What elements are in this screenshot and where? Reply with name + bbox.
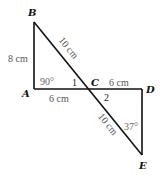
- point-label-b: B: [27, 7, 36, 18]
- point-label-d: D: [145, 84, 155, 95]
- angle-2-label: 2: [104, 92, 109, 103]
- measure-ab: 8 cm: [8, 53, 28, 64]
- measure-bc: 10 cm: [57, 35, 81, 61]
- point-label-a: A: [21, 88, 30, 99]
- point-label-e: E: [138, 160, 147, 171]
- angle-a-label: 90°: [40, 76, 54, 87]
- measure-ac: 6 cm: [49, 93, 69, 104]
- measure-cd: 6 cm: [109, 77, 129, 88]
- geometry-diagram: B A C D E 8 cm 10 cm 6 cm 6 cm 10 cm 90°…: [0, 0, 160, 179]
- angle-e-label: 37°: [124, 121, 138, 132]
- point-label-c: C: [91, 77, 99, 88]
- angle-1-label: 1: [72, 77, 77, 88]
